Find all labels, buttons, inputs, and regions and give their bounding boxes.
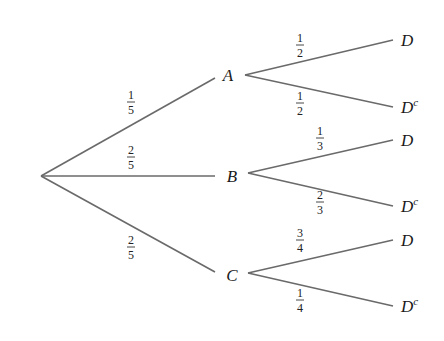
outcome-a-d: D <box>400 31 414 50</box>
tree-labels: A15B25C25D12Dc12D13Dc23D34Dc14 <box>127 31 418 316</box>
outcome-b-d: D <box>400 131 414 150</box>
outcome-a-dc: Dc <box>400 96 418 117</box>
tree-edges <box>41 40 393 306</box>
complement-superscript: c <box>413 195 418 207</box>
prob-label-a-dc: 12 <box>296 89 304 118</box>
prob-label-c: 25 <box>127 233 135 262</box>
outcome-label: D <box>400 197 414 216</box>
fraction-numerator: 1 <box>128 88 134 102</box>
outcome-label: D <box>400 98 414 117</box>
outcome-label: D <box>400 31 414 50</box>
prob-label-a: 15 <box>127 88 135 117</box>
outcome-b-dc: Dc <box>400 195 418 216</box>
node-a: A <box>222 66 234 85</box>
fraction-denominator: 5 <box>128 158 134 172</box>
edge-c-dc <box>248 273 393 306</box>
fraction-denominator: 2 <box>297 46 303 60</box>
fraction-denominator: 2 <box>297 104 303 118</box>
outcome-label: D <box>400 131 414 150</box>
fraction-numerator: 3 <box>297 226 303 240</box>
probability-tree-diagram: A15B25C25D12Dc12D13Dc23D34Dc14 <box>0 0 444 341</box>
prob-label-c-d: 34 <box>296 226 304 255</box>
prob-label-a-d: 12 <box>296 31 304 60</box>
edge-a-dc <box>245 75 393 107</box>
prob-label-b-dc: 23 <box>316 188 324 217</box>
outcome-label: D <box>400 231 414 250</box>
fraction-numerator: 1 <box>317 124 323 138</box>
fraction-denominator: 3 <box>317 203 323 217</box>
fraction-denominator: 4 <box>297 241 303 255</box>
fraction-numerator: 2 <box>317 188 323 202</box>
fraction-numerator: 1 <box>297 31 303 45</box>
prob-label-b-d: 13 <box>316 124 324 153</box>
node-c: C <box>226 266 238 285</box>
fraction-denominator: 4 <box>297 301 303 315</box>
outcome-c-dc: Dc <box>400 295 418 316</box>
fraction-numerator: 2 <box>128 143 134 157</box>
complement-superscript: c <box>413 295 418 307</box>
fraction-numerator: 2 <box>128 233 134 247</box>
outcome-c-d: D <box>400 231 414 250</box>
node-b: B <box>227 167 238 186</box>
outcome-label: D <box>400 297 414 316</box>
edge-a-d <box>245 40 393 75</box>
fraction-denominator: 5 <box>128 248 134 262</box>
prob-label-b: 25 <box>127 143 135 172</box>
fraction-numerator: 1 <box>297 286 303 300</box>
prob-label-c-dc: 14 <box>296 286 304 315</box>
complement-superscript: c <box>413 96 418 108</box>
fraction-denominator: 3 <box>317 139 323 153</box>
fraction-denominator: 5 <box>128 103 134 117</box>
fraction-numerator: 1 <box>297 89 303 103</box>
edge-c-d <box>248 240 393 273</box>
